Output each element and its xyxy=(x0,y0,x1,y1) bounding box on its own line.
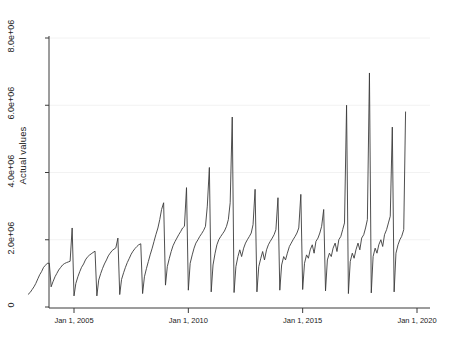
chart-container: Actual values 02.0e+064.0e+066.0e+068.0e… xyxy=(0,0,449,343)
y-axis-tick-label: 8.0e+06 xyxy=(6,6,16,66)
y-axis-tick-label: 2.0e+06 xyxy=(6,208,16,268)
y-axis-tick-label: 6.0e+06 xyxy=(6,73,16,133)
gridlines-group xyxy=(49,38,430,240)
line-chart-plot xyxy=(0,0,449,343)
y-axis-title: Actual values xyxy=(17,96,28,216)
x-axis-tick-label: Jan 1, 2015 xyxy=(283,316,322,325)
x-ticks-group xyxy=(74,308,417,313)
x-axis-tick-label: Jan 1, 2005 xyxy=(54,316,93,325)
y-axis-tick-label: 4.0e+06 xyxy=(6,141,16,201)
x-axis-tick-label: Jan 1, 2010 xyxy=(169,316,208,325)
y-axis-tick-label: 0 xyxy=(6,275,16,335)
data-series-line xyxy=(28,73,405,296)
x-axis-tick-label: Jan 1, 2020 xyxy=(397,316,436,325)
y-ticks-group xyxy=(45,38,49,307)
